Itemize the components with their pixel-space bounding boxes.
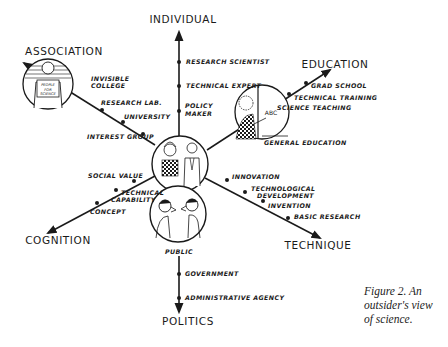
node-concept: CONCEPT [90,208,126,215]
caption-line-1: Figure 2. An [364,284,448,298]
node-college: COLLEGE [91,82,126,89]
node-development: DEVELOPMENT [257,192,314,199]
node-research-lab: RESEARCH LAB. [101,99,162,106]
node-general-education: GENERAL EDUCATION [264,139,347,146]
node-administrative-agency: ADMINISTRATIVE AGENCY [184,294,286,301]
axis-label-association: ASSOCIATION [25,45,103,57]
node-invisible: INVISIBLE [91,75,130,82]
node-research-scientist: RESEARCH SCIENTIST [186,58,270,65]
cognition-axis [48,176,155,233]
node-technical-expert: TECHNICAL EXPERT [186,82,261,89]
figure-caption: Figure 2. An outsider's view of science. [364,284,448,326]
center-illustration [152,136,208,192]
node-capability: CAPABILITY [111,196,157,203]
node-interest-group: INTEREST GROUP [87,133,154,140]
node-social-value: SOCIAL VALUE [88,172,143,179]
axis-label-technique: TECHNIQUE [283,239,351,251]
caption-line-2: outsider's view [364,298,448,312]
education-illustration: ABC [235,85,289,139]
node-technical: TECHNICAL [121,189,164,196]
node-innovation: INNOVATION [232,173,280,180]
node-technical-training: TECHNICAL TRAINING [294,94,377,101]
node-grad-school: GRAD SCHOOL [311,82,367,89]
caption-line-3: of science. [364,312,448,326]
axis-label-cognition: COGNITION [25,234,91,246]
node-maker: MAKER [185,110,212,117]
sign-line-2: FOR [44,88,52,92]
axis-label-politics: POLITICS [162,315,214,327]
node-university: UNIVERSITY [124,113,172,120]
node-government: GOVERNMENT [185,270,239,277]
node-invention: INVENTION [268,202,311,209]
axis-label-individual: INDIVIDUAL [149,13,216,25]
node-policy: POLICY [185,102,214,109]
association-illustration: PEOPLE FOR SCIENCE [23,59,73,109]
node-technological: TECHNOLOGICAL [251,185,315,192]
node-science-teaching: SCIENCE TEACHING [277,104,352,111]
axis-label-education: EDUCATION [301,58,368,70]
blackboard-text: ABC [265,109,277,116]
sign-line-3: SCIENCE [40,92,56,96]
node-basic-research: BASIC RESEARCH [294,213,361,220]
node-public: PUBLIC [165,248,193,255]
sign-line-1: PEOPLE [41,83,55,87]
